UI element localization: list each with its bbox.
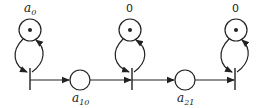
arc-transition-to-place xyxy=(134,40,145,72)
place-circle xyxy=(175,70,195,90)
petri-net-diagram: a0 0 0 a10 a21 xyxy=(0,0,263,108)
place-label-a10: a10 xyxy=(72,91,89,107)
arc-place-to-transition xyxy=(115,39,129,72)
marked-place-a0: a0 xyxy=(15,1,43,72)
arc-place-to-transition xyxy=(221,39,232,72)
token-dot xyxy=(234,28,238,32)
arc-transition-to-place xyxy=(237,40,248,72)
place-label-a0: a0 xyxy=(24,1,36,17)
arc-transition-to-place xyxy=(32,40,43,72)
arc-place-to-transition xyxy=(15,39,27,72)
place-label-a21: a21 xyxy=(177,91,194,107)
marked-place-2: 0 xyxy=(221,2,248,72)
place-a10: a10 xyxy=(70,70,90,107)
place-label-1: 0 xyxy=(126,2,133,15)
place-circle xyxy=(70,70,90,90)
place-a21: a21 xyxy=(175,70,195,107)
marked-place-1: 0 xyxy=(115,2,145,72)
token-dot xyxy=(28,28,32,32)
place-label-2: 0 xyxy=(232,2,239,15)
token-dot xyxy=(128,28,132,32)
